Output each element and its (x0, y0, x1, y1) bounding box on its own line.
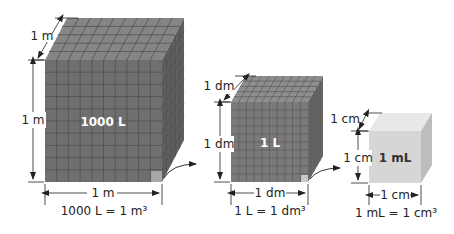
small-cube-width-label: 1 cm (380, 188, 410, 202)
volume-diagram: 1000 L 1 m 1 m 1 m 1000 L = 1 m³ (0, 0, 454, 234)
medium-cube-unit-highlight (301, 175, 308, 182)
large-cube-depth-label: 1 m (30, 29, 53, 43)
large-cube-volume-label: 1000 L (80, 115, 126, 129)
small-cube-volume-label: 1 mL (379, 151, 412, 165)
medium-cube-caption: 1 L = 1 dm³ (234, 204, 306, 218)
small-cube: 1 mL (369, 113, 432, 183)
medium-cube-height-label: 1 dm (204, 137, 235, 151)
large-cube-caption: 1000 L = 1 m³ (61, 204, 148, 218)
small-cube-height-label: 1 cm (343, 151, 373, 165)
medium-cube-width-label: 1 dm (255, 186, 286, 200)
large-cube-height-label: 1 m (21, 113, 44, 127)
small-cube-depth-label: 1 cm (330, 112, 360, 126)
small-cube-top-face (369, 113, 432, 131)
medium-cube-depth-label: 1 dm (204, 79, 235, 93)
large-cube-unit-highlight (151, 171, 162, 182)
large-cube-width-label: 1 m (91, 186, 114, 200)
medium-cube: 1 L (231, 76, 323, 182)
medium-cube-volume-label: 1 L (260, 136, 281, 150)
large-cube: 1000 L (45, 18, 184, 182)
small-cube-caption: 1 mL = 1 cm³ (355, 206, 437, 220)
